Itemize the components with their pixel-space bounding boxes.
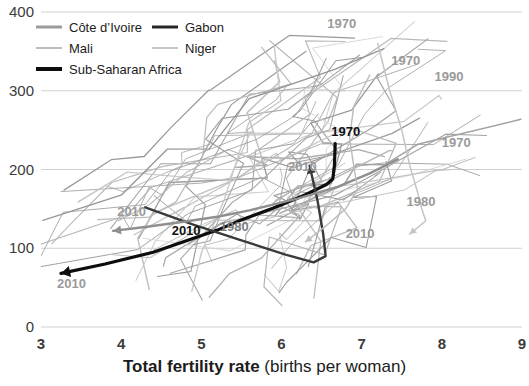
x-axis-title-bold: Total fertility rate xyxy=(123,357,260,376)
x-axis-tick-labels: 3456789 xyxy=(37,335,526,352)
background-line xyxy=(118,65,415,221)
fertility-mortality-scatter-chart: 0100200300400 3456789 197020101980201020… xyxy=(0,0,529,386)
y-tick-0: 0 xyxy=(26,318,34,335)
ann-niger-2010: 2010 xyxy=(288,159,317,174)
y-tick-200: 200 xyxy=(9,161,34,178)
legend-label-gabon: Gabon xyxy=(185,20,224,35)
y-tick-300: 300 xyxy=(9,82,34,99)
x-tick-6: 6 xyxy=(277,335,285,352)
x-tick-7: 7 xyxy=(357,335,365,352)
chart-annotations: 1970201019802010201020101970197019901970… xyxy=(57,16,471,292)
chart-legend: Côte d’IvoireGabonMaliNigerSub-Saharan A… xyxy=(36,20,224,77)
ann-other-1970: 1970 xyxy=(442,135,471,150)
chart-svg: 0100200300400 3456789 197020101980201020… xyxy=(0,0,529,386)
x-tick-9: 9 xyxy=(518,335,526,352)
legend-label-cote-divoire: Côte d’Ivoire xyxy=(69,20,142,35)
x-axis-title-rest: (births per woman) xyxy=(264,357,406,376)
x-tick-4: 4 xyxy=(117,335,126,352)
ann-ssa-2010: 2010 xyxy=(172,223,201,238)
ann-cotedivoire-1980: 1980 xyxy=(220,219,249,234)
ann-other-1980: 1980 xyxy=(407,194,436,209)
background-line xyxy=(61,115,480,192)
x-axis-title: Total fertility rate (births per woman) xyxy=(0,357,529,377)
y-tick-400: 400 xyxy=(9,3,34,20)
x-tick-8: 8 xyxy=(438,335,446,352)
legend-label-niger: Niger xyxy=(185,41,217,56)
ann-gabon-1990: 1990 xyxy=(435,69,464,84)
ann-gabon-1970: 1970 xyxy=(391,53,420,68)
ann-ssa-1970: 1970 xyxy=(331,124,360,139)
x-tick-5: 5 xyxy=(197,335,205,352)
ann-cotedivoire-2010: 2010 xyxy=(117,204,146,219)
x-tick-3: 3 xyxy=(37,335,45,352)
series-arrow-cote-divoire xyxy=(113,225,121,234)
ann-mali-2010: 2010 xyxy=(57,276,86,291)
legend-label-mali: Mali xyxy=(69,41,93,56)
y-tick-100: 100 xyxy=(9,239,34,256)
y-axis-tick-labels: 0100200300400 xyxy=(9,3,34,335)
background-line xyxy=(275,74,378,216)
ann-niger-1970: 1970 xyxy=(327,16,356,31)
ann-other-2010: 2010 xyxy=(346,226,375,241)
legend-label-sub-saharan-africa: Sub-Saharan Africa xyxy=(69,62,183,77)
